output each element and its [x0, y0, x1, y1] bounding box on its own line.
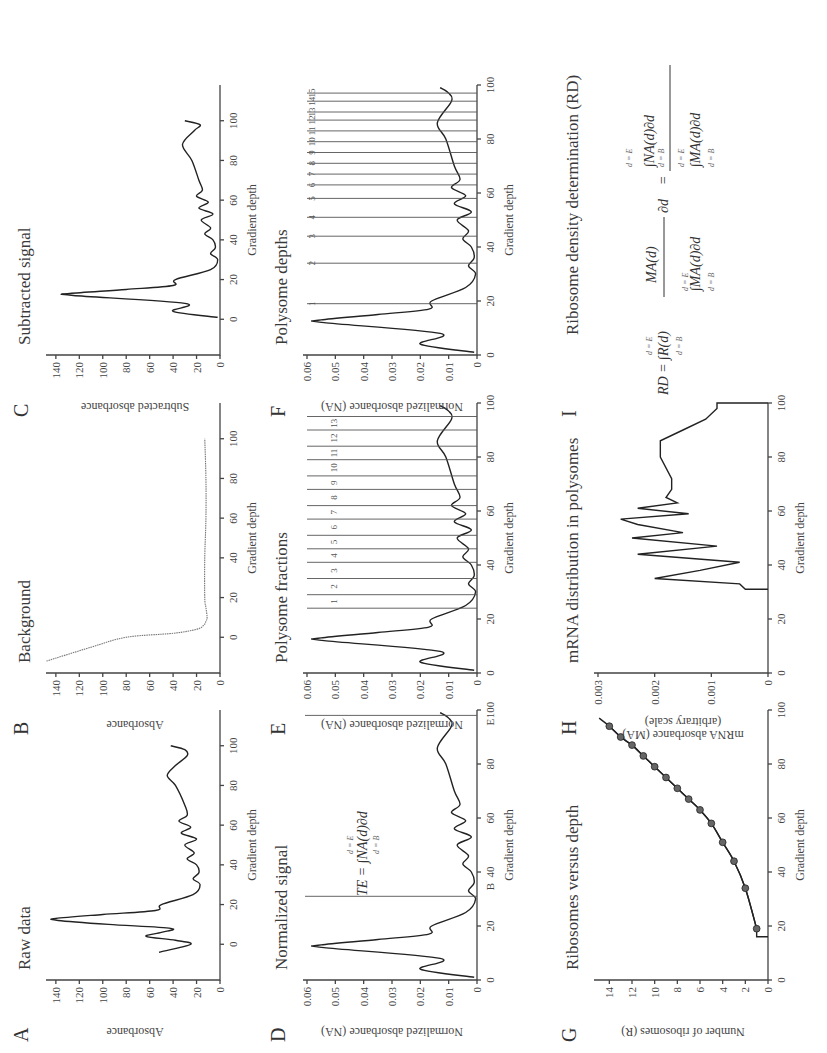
- y-tick-label: 0: [471, 362, 483, 368]
- y-tick-label: 100: [97, 362, 109, 379]
- x-tick-label: 20: [775, 920, 787, 932]
- polysome-depth-label: 1: [307, 301, 317, 306]
- y-axis-sublabel: (arbitrary scale): [645, 715, 721, 729]
- x-axis-label: Gradient depth: [793, 809, 807, 881]
- data-curve: [46, 439, 207, 661]
- panel-letter: E: [267, 723, 289, 735]
- figure-canvas: ARaw data020406080100120140020406080100G…: [0, 0, 827, 1053]
- y-axis-label: Number of ribosomes (R): [621, 1025, 745, 1039]
- y-tick-label: 120: [73, 680, 85, 697]
- fraction-label: 11: [329, 449, 339, 458]
- x-axis-label: Gradient depth: [502, 184, 516, 256]
- y-tick-label: 4: [717, 987, 729, 993]
- data-curve: [312, 713, 476, 978]
- x-tick-label: 20: [484, 295, 496, 307]
- y-tick-label: 0.04: [358, 987, 370, 1007]
- data-point-marker: [742, 885, 749, 892]
- panel-letter: H: [558, 721, 580, 735]
- data-point-marker: [685, 796, 692, 803]
- y-tick-label: 0.003: [592, 680, 604, 705]
- svg-text:d = B: d = B: [707, 273, 716, 291]
- data-point-marker: [674, 785, 681, 792]
- panel-title: Subtracted signal: [15, 227, 34, 345]
- svg-text:∂d: ∂d: [656, 198, 671, 213]
- y-tick-label: 60: [144, 680, 156, 692]
- panel-f: FPolysome depths00.010.020.030.040.050.0…: [267, 76, 516, 417]
- panel-b: BBackground02040608010012014002040608010…: [10, 403, 259, 735]
- y-tick-label: 100: [97, 680, 109, 697]
- x-tick-label: 0: [227, 634, 239, 640]
- svg-text:MA(d): MA(d): [644, 246, 660, 284]
- fraction-label: 6: [329, 524, 339, 529]
- panel-letter: A: [10, 1027, 32, 1042]
- svg-text:∫NA(d)∂d: ∫NA(d)∂d: [642, 114, 658, 168]
- fraction-label: 10: [329, 463, 339, 473]
- y-tick-label: 0: [471, 987, 483, 993]
- y-tick-label: 20: [191, 987, 203, 999]
- y-tick-label: 0: [214, 987, 226, 993]
- y-tick-label: 0: [762, 987, 774, 993]
- x-tick-label: 80: [227, 472, 239, 484]
- y-tick-label: 20: [191, 362, 203, 374]
- x-tick-label: 40: [775, 866, 787, 878]
- x-tick-label: 0: [484, 977, 496, 983]
- y-tick-label: 0.01: [443, 680, 455, 699]
- fraction-label: 4: [329, 553, 339, 558]
- svg-text:d = E: d = E: [625, 149, 634, 167]
- polysome-depth-label: 3: [307, 233, 317, 238]
- rotated-figure: ARaw data020406080100120140020406080100G…: [10, 65, 807, 1042]
- x-axis-label: Gradient depth: [502, 502, 516, 574]
- x-tick-label: 100: [227, 737, 239, 754]
- y-tick-label: 0.05: [329, 987, 341, 1007]
- y-tick-label: 80: [120, 987, 132, 999]
- svg-text:d = B: d = B: [707, 149, 716, 167]
- y-tick-label: 0.03: [386, 362, 398, 382]
- fit-curve: [599, 718, 757, 929]
- data-point-marker: [719, 839, 726, 846]
- axes: [303, 85, 477, 355]
- te-formula: TE = ∫NA(d)∂d: [355, 810, 371, 896]
- panel-letter: I: [558, 410, 580, 417]
- y-axis-label: Subtracted absorbance: [81, 400, 189, 414]
- panel-title: Polysome fractions: [272, 532, 291, 663]
- fraction-label: 3: [329, 568, 339, 573]
- panel-letter: C: [10, 404, 32, 417]
- svg-text:d = E: d = E: [677, 149, 686, 167]
- panel-e: EPolysome fractions00.010.020.030.040.05…: [267, 394, 516, 735]
- panel-title: Ribosomes versus depth: [563, 804, 582, 970]
- boundary-label: E: [484, 718, 496, 725]
- polysome-depth-label: 10: [307, 137, 317, 147]
- x-tick-label: 40: [227, 552, 239, 564]
- rd-formula: d = ERD = ∫R(d)d = BMA(d)∂dd = E∫MA(d)∂d…: [625, 65, 716, 396]
- x-tick-label: 0: [227, 941, 239, 947]
- x-tick-label: 80: [775, 758, 787, 770]
- x-tick-label: 40: [484, 559, 496, 571]
- axes: [303, 710, 477, 980]
- y-tick-label: 0.02: [414, 680, 426, 699]
- polysome-depth-label: 15: [307, 88, 317, 98]
- polysome-depth-label: 7: [307, 171, 317, 176]
- x-tick-label: 40: [484, 866, 496, 878]
- x-tick-label: 80: [484, 133, 496, 145]
- y-tick-label: 40: [167, 362, 179, 374]
- data-point-marker: [663, 774, 670, 781]
- data-curve: [312, 88, 476, 353]
- panel-title: Raw data: [15, 906, 34, 970]
- fraction-label: 7: [329, 510, 339, 515]
- x-tick-label: 80: [775, 451, 787, 463]
- fraction-label: 8: [329, 495, 339, 500]
- y-tick-label: 6: [694, 987, 706, 993]
- y-tick-label: 0.03: [386, 680, 398, 700]
- y-tick-label: 80: [120, 680, 132, 692]
- x-axis-label: Gradient depth: [245, 184, 259, 256]
- y-tick-label: 0.04: [358, 680, 370, 700]
- fraction-label: 2: [329, 584, 339, 589]
- x-axis-label: Gradient depth: [502, 809, 516, 881]
- y-tick-label: 80: [120, 362, 132, 374]
- y-tick-label: 140: [50, 987, 62, 1004]
- x-tick-label: 60: [484, 505, 496, 517]
- x-tick-label: 60: [775, 812, 787, 824]
- x-tick-label: 40: [227, 859, 239, 871]
- polysome-depth-label: 13: [307, 107, 317, 117]
- y-tick-label: 0.03: [386, 987, 398, 1007]
